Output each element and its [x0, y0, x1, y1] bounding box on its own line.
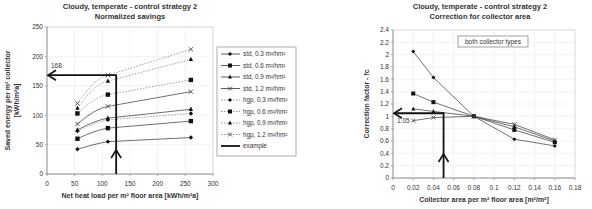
x-tick-label: 150: [125, 180, 136, 187]
x-tick-label: 0.14: [528, 184, 541, 191]
legend-label: std, 0.3 m²/hm²: [243, 50, 285, 57]
x-tick-label: 0.16: [548, 184, 561, 191]
y-tick-label: 150: [32, 82, 43, 89]
legend-label: std, 0.6 m²/hm²: [243, 62, 285, 69]
square-marker: [106, 126, 110, 130]
square-marker: [512, 128, 516, 132]
savings-chart: Cloudy, temperate - control strategy 2No…: [4, 2, 296, 200]
legend-label: std, 1.2 m²/hm²: [243, 85, 285, 92]
legend-label: std, 0.9 m²/hm²: [243, 73, 285, 80]
chart-title: Cloudy, temperate - control strategy 2: [63, 2, 197, 11]
square-marker: [411, 92, 415, 96]
y-tick-label: 1.6: [380, 76, 389, 83]
square-marker: [106, 92, 110, 96]
square-marker: [431, 100, 435, 104]
example-value-label: 1.05: [397, 117, 410, 124]
legend-label: example: [243, 142, 267, 150]
chart-subtitle: Correction for collector area: [430, 12, 532, 21]
y-tick-label: 0.2: [380, 162, 389, 169]
y-tick-label: 250: [32, 23, 43, 30]
x-tick-label: 100: [97, 180, 108, 187]
y-tick-label: 50: [36, 141, 44, 148]
legend-label: hgp, 0.6 m²/hm²: [243, 108, 287, 116]
x-tick-label: 0.08: [468, 184, 481, 191]
x-tick-label: 300: [208, 180, 219, 187]
x-tick-label: 0.02: [407, 184, 420, 191]
x-axis-label: Net heat load per m² floor area [kWh/m²a…: [62, 192, 199, 200]
y-tick-label: 2.2: [380, 39, 389, 46]
figure: Cloudy, temperate - control strategy 2No…: [0, 0, 592, 209]
y-tick-label: 0.4: [380, 150, 389, 157]
square-marker: [189, 78, 193, 82]
x-tick-label: 0: [45, 180, 49, 187]
correction-chart: Cloudy, temperate - control strategy 2Co…: [363, 2, 582, 204]
x-tick-label: 0: [391, 184, 395, 191]
y-tick-label: 0: [39, 170, 43, 177]
y-tick-label: 1: [385, 113, 389, 120]
y-tick-label: 0.6: [380, 137, 389, 144]
x-tick-label: 0.06: [447, 184, 460, 191]
square-marker: [189, 119, 193, 123]
y-tick-label: 2.4: [380, 26, 389, 33]
x-tick-label: 0.04: [427, 184, 440, 191]
x-tick-label: 50: [71, 180, 79, 187]
y-tick-label: 100: [32, 112, 43, 119]
y-axis-label: Saved energy per m² collector: [4, 50, 12, 150]
legend-label: hgp, 0.3 m²/hm²: [243, 96, 287, 104]
chart-subtitle: Normalized savings: [95, 12, 165, 21]
y-axis-label: Correction factor - fc: [363, 69, 370, 138]
square-marker: [75, 137, 79, 141]
y-tick-label: 1.4: [380, 88, 389, 95]
y-tick-label: 0: [385, 174, 389, 181]
y-tick-label: 1.2: [380, 100, 389, 107]
legend: std, 0.3 m²/hm²std, 0.6 m²/hm²std, 0.9 m…: [217, 47, 296, 156]
x-tick-label: 0.1: [490, 184, 499, 191]
y-tick-label: 0.8: [380, 125, 389, 132]
x-axis-label: Collector area per m² floor area [m²/m²]: [419, 196, 549, 204]
example-value-label: 168: [51, 62, 62, 69]
x-tick-label: 250: [180, 180, 191, 187]
x-tick-label: 0.12: [508, 184, 521, 191]
legend-label: hgp, 0.9 m²/hm²: [243, 119, 287, 127]
y-axis-label-units: [kWh/m²a]: [13, 84, 21, 118]
square-marker: [75, 111, 79, 115]
legend-label: hgp, 1.2 m²/hm²: [243, 131, 287, 139]
square-marker: [228, 110, 232, 114]
y-tick-label: 1.8: [380, 63, 389, 70]
chart-title: Cloudy, temperate - control strategy 2: [413, 2, 547, 11]
x-tick-label: 0.18: [569, 184, 582, 191]
x-tick-label: 200: [152, 180, 163, 187]
annotation-text: both collector types: [465, 38, 522, 46]
y-tick-label: 200: [32, 53, 43, 60]
y-tick-label: 2: [385, 51, 389, 58]
square-marker: [228, 64, 232, 68]
